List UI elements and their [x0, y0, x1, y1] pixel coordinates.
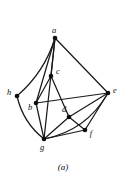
graph-vertex-b	[34, 101, 39, 106]
graph-vertex-h	[15, 94, 20, 99]
vertex-layer: achbedfg	[7, 25, 117, 152]
graph-edge-d-f	[69, 117, 85, 130]
graph-vertex-a	[53, 36, 58, 41]
graph-edge-a-e	[55, 38, 108, 93]
graph-edge-d-e	[69, 93, 108, 117]
graph-vertex-label-a: a	[52, 25, 56, 35]
graph-vertex-d	[67, 115, 72, 120]
graph-vertex-f	[83, 128, 88, 133]
graph-vertex-label-e: e	[113, 85, 117, 95]
graph-edge-c-d	[51, 76, 69, 117]
graph-vertex-e	[106, 91, 111, 96]
graph-vertex-label-g: g	[40, 142, 44, 152]
figure-caption: (a)	[58, 162, 69, 172]
graph-edge-b-e	[36, 93, 108, 103]
graph-figure: achbedfg (a)	[0, 0, 125, 187]
graph-vertex-label-f: f	[90, 128, 94, 138]
graph-vertex-label-c: c	[56, 66, 60, 76]
graph-vertex-label-h: h	[7, 87, 11, 97]
graph-vertex-g	[42, 137, 47, 142]
graph-vertex-label-b: b	[28, 102, 32, 112]
graph-canvas: achbedfg (a)	[0, 0, 125, 187]
edge-layer	[17, 38, 108, 139]
graph-vertex-c	[49, 74, 54, 79]
